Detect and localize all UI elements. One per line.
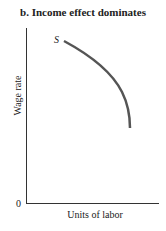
curve-label: S	[54, 34, 59, 45]
chart-plot	[0, 0, 166, 231]
x-axis-label: Units of labor	[40, 209, 150, 220]
origin-label: 0	[16, 198, 21, 209]
supply-curve	[64, 41, 130, 128]
y-axis-label: Wage rate	[12, 66, 23, 126]
